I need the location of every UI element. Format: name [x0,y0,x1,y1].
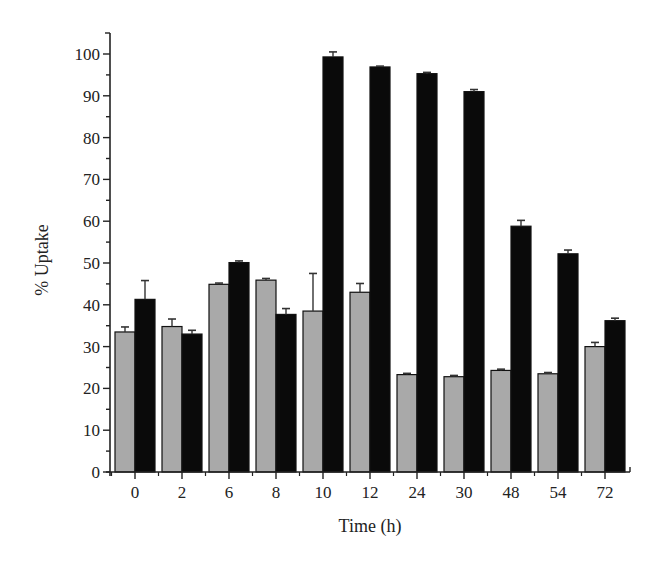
y-tick-label: 30 [83,338,100,357]
bar-gray-10 [303,311,323,472]
x-tick-label: 0 [131,483,140,502]
y-tick-label: 100 [75,45,101,64]
y-tick-label: 0 [92,463,101,482]
y-tick-label: 70 [83,170,100,189]
x-tick-label: 8 [272,483,281,502]
bar-black-72 [605,321,625,472]
y-axis: 0102030405060708090100 [75,33,111,482]
y-axis-title: % Uptake [32,224,52,295]
y-tick-label: 80 [83,129,100,148]
x-tick-label: 10 [315,483,332,502]
x-tick-label: 48 [503,483,520,502]
bar-gray-8 [256,280,276,472]
bar-gray-72 [585,347,605,472]
bar-gray-0 [115,332,135,472]
x-axis: 026810122430485472 [106,467,630,502]
bar-gray-48 [491,370,511,472]
bar-chart: 0102030405060708090100 02681012243048547… [0,0,660,568]
x-tick-label: 6 [225,483,234,502]
bars-layer [115,52,625,472]
y-tick-label: 60 [83,212,100,231]
bar-black-8 [276,314,296,472]
bar-black-6 [229,263,249,472]
x-tick-label: 12 [362,483,379,502]
bar-gray-24 [397,375,417,472]
x-tick-label: 2 [178,483,187,502]
y-tick-label: 20 [83,379,100,398]
bar-black-48 [511,226,531,472]
x-tick-label: 72 [597,483,614,502]
y-tick-label: 10 [83,421,100,440]
bar-gray-30 [444,377,464,472]
x-tick-label: 24 [409,483,427,502]
bar-black-54 [558,254,578,472]
bar-gray-2 [162,327,182,472]
x-axis-title: Time (h) [339,516,402,537]
y-tick-label: 50 [83,254,100,273]
y-tick-label: 90 [83,87,100,106]
bar-black-0 [135,299,155,472]
bar-black-12 [370,67,390,472]
y-tick-label: 40 [83,296,100,315]
bar-black-10 [323,57,343,472]
bar-gray-6 [209,284,229,472]
x-tick-label: 54 [550,483,568,502]
bar-black-2 [182,334,202,472]
bar-gray-54 [538,374,558,472]
bar-black-30 [464,92,484,472]
bar-black-24 [417,74,437,472]
bar-gray-12 [350,292,370,472]
x-tick-label: 30 [456,483,473,502]
